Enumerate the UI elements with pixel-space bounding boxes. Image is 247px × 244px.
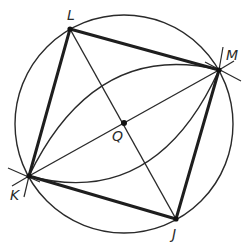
point-k bbox=[26, 173, 31, 178]
construction-line-k bbox=[8, 168, 40, 182]
point-l bbox=[67, 26, 72, 31]
point-q bbox=[121, 120, 127, 126]
label-l: L bbox=[67, 7, 75, 23]
point-j bbox=[173, 216, 178, 221]
point-m bbox=[216, 67, 221, 72]
label-q: Q bbox=[112, 128, 123, 144]
geometry-figure: L M J K Q bbox=[0, 0, 247, 244]
construction-tick-m-2 bbox=[219, 47, 223, 70]
diagram-canvas: L M J K Q bbox=[0, 0, 247, 244]
label-j: J bbox=[169, 226, 176, 242]
label-k: K bbox=[10, 187, 21, 203]
label-m: M bbox=[226, 47, 238, 63]
